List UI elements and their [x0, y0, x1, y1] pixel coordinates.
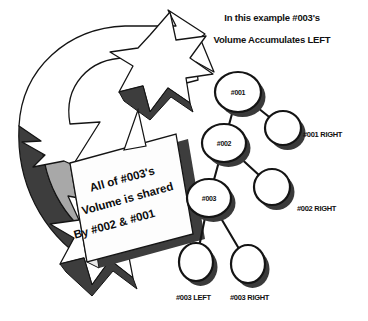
label-layer: #001#002#003#001 RIGHT#002 RIGHT#003 LEF…	[0, 0, 368, 321]
tree-label-n003right: #003 RIGHT	[230, 293, 269, 302]
tree-label-n002right: #002 RIGHT	[297, 204, 336, 213]
node-label-n001: #001	[231, 89, 245, 96]
tree-label-n001right: #001 RIGHT	[303, 130, 342, 139]
node-label-n002: #002	[217, 140, 231, 147]
tree-label-n003left: #003 LEFT	[176, 293, 211, 302]
node-label-n003: #003	[202, 195, 216, 202]
diagram-canvas: In this example #003's Volume Accumulate…	[0, 0, 368, 321]
